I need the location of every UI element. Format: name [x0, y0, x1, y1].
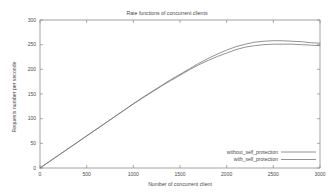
plot-border	[40, 20, 320, 168]
x-tick-label: 0	[39, 171, 42, 177]
y-axis-ticks: 050100150200250300	[28, 17, 320, 171]
chart-canvas: Rate functions of concurrent clients 050…	[0, 0, 334, 194]
y-tick-label: 200	[28, 66, 37, 72]
x-tick-label: 1000	[128, 171, 139, 177]
y-axis-title: Requests number per seconde	[11, 61, 17, 132]
series-line-with_self_protection	[40, 44, 320, 168]
x-tick-label: 1500	[174, 171, 185, 177]
legend-label-1: with_self_protection	[234, 156, 278, 162]
x-tick-label: 2500	[268, 171, 279, 177]
y-tick-label: 150	[28, 91, 37, 97]
x-axis-title: Number of concurrent client	[148, 181, 212, 187]
y-tick-label: 300	[28, 17, 37, 23]
y-tick-label: 0	[33, 165, 36, 171]
series-line-without_self_protection	[40, 41, 320, 168]
rate-functions-chart: Rate functions of concurrent clients 050…	[0, 0, 334, 194]
y-tick-label: 50	[30, 140, 36, 146]
x-axis-ticks: 050010001500200025003000	[39, 20, 326, 177]
y-tick-label: 250	[28, 41, 37, 47]
x-tick-label: 500	[82, 171, 91, 177]
x-tick-label: 3000	[314, 171, 325, 177]
x-tick-label: 2000	[221, 171, 232, 177]
y-tick-label: 100	[28, 115, 37, 121]
legend-label-0: without_self_protection	[227, 149, 278, 155]
chart-title: Rate functions of concurrent clients	[126, 10, 207, 16]
series-lines	[40, 41, 320, 168]
chart-legend: without_self_protectionwith_self_protect…	[227, 149, 316, 163]
